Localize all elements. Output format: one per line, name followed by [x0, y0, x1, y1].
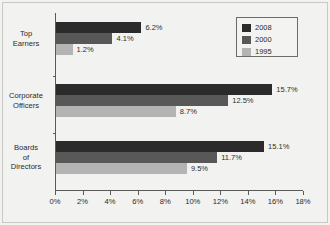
- legend-item-1995: 1995: [242, 46, 297, 57]
- bar-value-label: 12.5%: [232, 95, 253, 106]
- x-axis-label: 2%: [77, 197, 88, 206]
- x-axis-tick: [138, 191, 139, 195]
- legend-swatch-2000: [242, 36, 251, 44]
- legend-label-2008: 2008: [255, 23, 272, 33]
- x-axis-tick: [303, 191, 304, 195]
- bar-1995[interactable]: [56, 44, 73, 55]
- legend-item-2008: 2008: [242, 22, 297, 33]
- bar-value-label: 6.2%: [145, 22, 162, 33]
- bar-row[interactable]: 6.2%: [56, 22, 163, 33]
- bar-row[interactable]: 9.5%: [56, 163, 208, 174]
- bar-1995[interactable]: [56, 163, 187, 174]
- x-axis-tick: [248, 191, 249, 195]
- bar-row[interactable]: 15.1%: [56, 141, 289, 152]
- bar-2000[interactable]: [56, 152, 217, 163]
- bar-value-label: 4.1%: [116, 33, 133, 44]
- bar-row[interactable]: 4.1%: [56, 33, 134, 44]
- y-axis-tick: [53, 133, 56, 134]
- bar-group: 15.1%11.7%9.5%: [56, 141, 303, 174]
- bar-1995[interactable]: [56, 106, 176, 117]
- chart-figure: TopEarners CorporateOfficers BoardsofDir…: [0, 0, 330, 225]
- x-axis-label: 18%: [295, 197, 310, 206]
- x-axis-tick: [165, 191, 166, 195]
- bar-group: 15.7%12.5%8.7%: [56, 84, 303, 117]
- bar-row[interactable]: 12.5%: [56, 95, 254, 106]
- bar-2008[interactable]: [56, 84, 272, 95]
- x-axis-label: 10%: [185, 197, 200, 206]
- bar-2008[interactable]: [56, 22, 141, 33]
- legend-swatch-1995: [242, 48, 251, 56]
- x-axis-tick: [110, 191, 111, 195]
- legend-label-1995: 1995: [255, 47, 272, 57]
- legend-swatch-2008: [242, 24, 251, 32]
- bar-value-label: 9.5%: [191, 163, 208, 174]
- x-axis-tick: [83, 191, 84, 195]
- x-axis-label: 6%: [132, 197, 143, 206]
- x-axis-tick: [275, 191, 276, 195]
- category-label-top-earners: TopEarners: [0, 29, 52, 48]
- bar-value-label: 1.2%: [77, 44, 94, 55]
- bar-row[interactable]: 8.7%: [56, 106, 197, 117]
- chart-legend: 2008 2000 1995: [236, 17, 298, 57]
- x-axis-tick: [193, 191, 194, 195]
- category-label-corporate-officers: CorporateOfficers: [0, 91, 52, 110]
- bar-row[interactable]: 11.7%: [56, 152, 242, 163]
- legend-label-2000: 2000: [255, 35, 272, 45]
- bar-value-label: 8.7%: [180, 106, 197, 117]
- category-label-boards-of-directors: BoardsofDirectors: [0, 143, 52, 172]
- bar-2000[interactable]: [56, 33, 112, 44]
- x-axis-label: 4%: [105, 197, 116, 206]
- x-axis-tick: [55, 191, 56, 195]
- bar-value-label: 11.7%: [221, 152, 242, 163]
- x-axis-tick: [220, 191, 221, 195]
- y-axis-tick: [53, 76, 56, 77]
- x-axis-label: 14%: [240, 197, 255, 206]
- x-axis-label: 8%: [160, 197, 171, 206]
- bar-2000[interactable]: [56, 95, 228, 106]
- x-axis: 0%2%4%6%8%10%12%14%16%18%: [55, 191, 303, 217]
- bar-2008[interactable]: [56, 141, 264, 152]
- x-axis-label: 16%: [268, 197, 283, 206]
- x-axis-label: 0%: [50, 197, 61, 206]
- bar-value-label: 15.7%: [276, 84, 297, 95]
- bar-value-label: 15.1%: [268, 141, 289, 152]
- x-axis-label: 12%: [213, 197, 228, 206]
- legend-item-2000: 2000: [242, 34, 297, 45]
- bar-row[interactable]: 1.2%: [56, 44, 94, 55]
- bar-row[interactable]: 15.7%: [56, 84, 298, 95]
- category-axis-labels: TopEarners CorporateOfficers BoardsofDir…: [0, 13, 52, 191]
